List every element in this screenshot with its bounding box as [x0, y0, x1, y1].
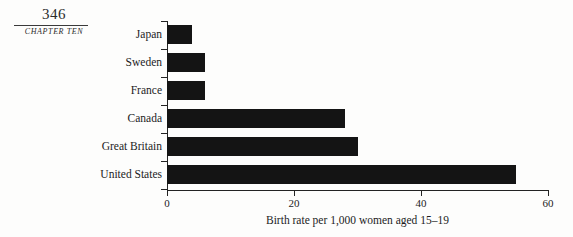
bar-chart: JapanSwedenFranceCanadaGreat BritainUnit… [0, 0, 573, 237]
bar [167, 165, 516, 184]
category-label: United States [62, 169, 162, 181]
y-axis-tick [161, 105, 167, 106]
category-axis-labels: JapanSwedenFranceCanadaGreat BritainUnit… [58, 0, 162, 190]
bar [167, 81, 205, 100]
bar [167, 109, 345, 128]
x-axis-tick [294, 190, 295, 196]
category-label: Japan [62, 29, 162, 41]
y-axis-tick [161, 21, 167, 22]
y-axis-tick [161, 161, 167, 162]
x-axis-tick-label: 20 [289, 198, 300, 209]
x-axis-title: Birth rate per 1,000 women aged 15–19 [167, 215, 548, 227]
category-label: Sweden [62, 57, 162, 69]
x-axis-tick [167, 190, 168, 196]
bar [167, 25, 192, 44]
category-label: Canada [62, 113, 162, 125]
category-label: France [62, 85, 162, 97]
y-axis-tick [161, 133, 167, 134]
x-axis-tick-label: 0 [164, 198, 170, 209]
bar [167, 137, 358, 156]
y-axis-tick [161, 49, 167, 50]
x-axis-tick [548, 190, 549, 196]
x-axis-tick-label: 40 [416, 198, 427, 209]
x-axis-tick [421, 190, 422, 196]
bar [167, 53, 205, 72]
y-axis-tick [161, 77, 167, 78]
category-label: Great Britain [62, 141, 162, 153]
x-axis-tick-label: 60 [543, 198, 554, 209]
x-axis-line [167, 190, 548, 191]
